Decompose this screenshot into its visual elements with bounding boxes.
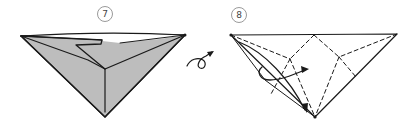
turn-over-arrow-icon [187, 51, 214, 68]
step-7-figure [21, 33, 187, 117]
origami-diagram: 7 8 [0, 0, 419, 128]
diagram-drawing [0, 0, 419, 128]
step-8-figure [229, 33, 397, 118]
